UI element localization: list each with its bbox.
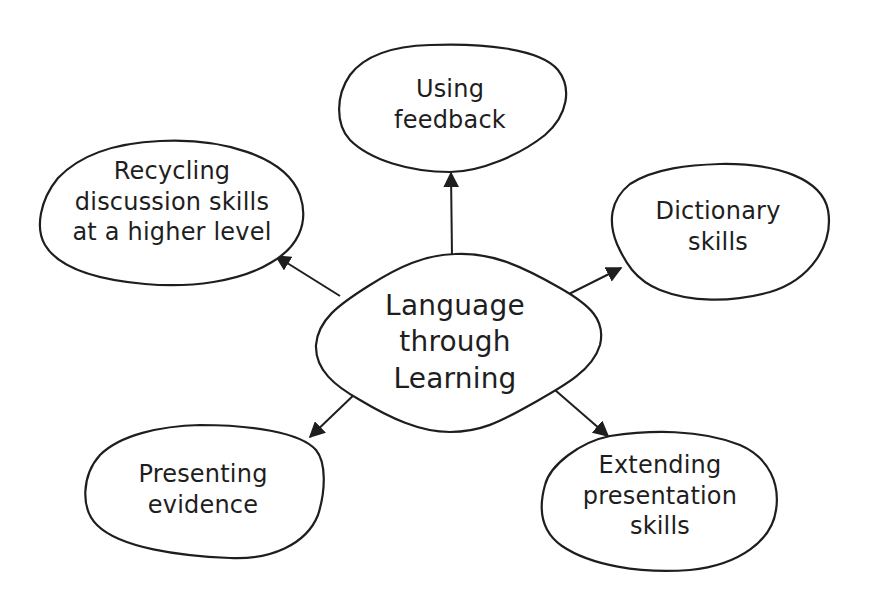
center-label-line: through: [385, 325, 525, 361]
dictionary-skills-label: Dictionary skills: [655, 196, 780, 257]
node-label-line: skills: [583, 511, 737, 542]
edge-center-to-presenting-evidence: [310, 390, 359, 437]
edge-center-to-recycling-discussion: [276, 256, 340, 296]
node-label-line: at a higher level: [72, 217, 271, 248]
recycling-discussion-label: Recycling discussion skills at a higher …: [72, 156, 271, 248]
presenting-evidence-label: Presenting evidence: [138, 459, 267, 520]
mind-map-canvas: Language through Learning Using feedback…: [0, 0, 872, 600]
extending-presentation-label: Extending presentation skills: [583, 450, 737, 542]
using-feedback-label: Using feedback: [394, 74, 506, 135]
node-label-line: feedback: [394, 105, 506, 136]
node-label-line: discussion skills: [72, 187, 271, 218]
node-label-line: Using: [394, 74, 506, 105]
node-label-line: Presenting: [138, 459, 267, 490]
edge-center-to-using-feedback: [451, 173, 452, 256]
node-label-line: Extending: [583, 450, 737, 481]
center-label-line: Language: [385, 288, 525, 324]
node-label-line: Dictionary: [655, 196, 780, 227]
node-label-line: evidence: [138, 490, 267, 521]
center-node-label: Language through Learning: [385, 288, 525, 397]
center-label-line: Learning: [385, 361, 525, 397]
node-label-line: Recycling: [72, 156, 271, 187]
node-label-line: skills: [655, 227, 780, 258]
edge-center-to-extending-presentation: [555, 390, 608, 436]
node-label-line: presentation: [583, 481, 737, 512]
